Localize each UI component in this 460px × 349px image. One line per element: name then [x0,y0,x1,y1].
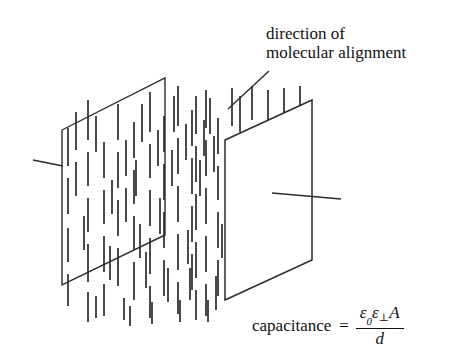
front-capacitor-plate [225,100,312,300]
capacitance-fraction: ε0ε⊥A d [356,304,404,348]
alignment-label-line-2: molecular alignment [266,43,406,62]
molecular-alignment-label: direction of molecular alignment [266,24,406,62]
epsilon-zero-subscript: 0 [367,315,373,327]
epsilon-zero-symbol: ε [360,303,367,322]
annotation-leader-line [228,71,269,109]
formula-numerator: ε0ε⊥A [356,304,404,328]
capacitance-label: capacitance [252,316,331,335]
back-plate-lead-wire [33,160,63,166]
equals-sign: = [339,316,349,335]
capacitance-formula: capacitance = ε0ε⊥A d [252,303,404,347]
epsilon-perp-symbol: ε [372,303,379,322]
capacitor-diagram: direction of molecular alignment capacit… [0,0,460,349]
perpendicular-subscript: ⊥ [379,311,389,323]
area-symbol: A [389,303,399,322]
formula-denominator: d [371,329,388,348]
alignment-label-line-1: direction of [266,24,406,43]
